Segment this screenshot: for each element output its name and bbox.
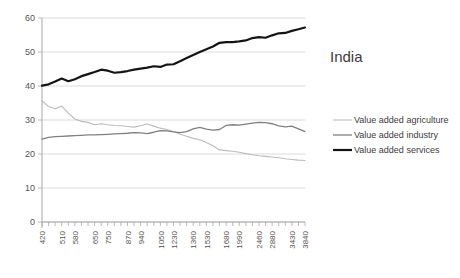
legend-label: Value added services: [354, 145, 440, 155]
series-line: [42, 101, 305, 161]
x-tick-label: 510: [58, 230, 67, 244]
chart-container: 0102030405060 42051058065075087094010501…: [0, 0, 460, 278]
line-chart: 0102030405060 42051058065075087094010501…: [0, 0, 460, 278]
x-tick-label: 1990: [235, 230, 244, 248]
y-tick-label: 20: [25, 149, 35, 159]
chart-title: India: [330, 48, 363, 65]
y-tick-label: 30: [25, 115, 35, 125]
x-tick-label: 3430: [288, 230, 297, 248]
x-tick-label: 870: [124, 230, 133, 244]
chart-legend: Value added agricultureValue added indus…: [333, 115, 448, 155]
y-tick-label: 50: [25, 47, 35, 57]
x-tick-label: 2460: [255, 230, 264, 248]
x-tick-label: 3840: [301, 230, 310, 248]
y-tick-label: 10: [25, 183, 35, 193]
x-tick-label: 650: [91, 230, 100, 244]
gridlines: [42, 18, 305, 222]
y-tick-label: 0: [30, 217, 35, 227]
x-tick-label: 1530: [203, 230, 212, 248]
x-tick-label: 1050: [157, 230, 166, 248]
x-tick-label: 1360: [189, 230, 198, 248]
x-tick-label: 750: [104, 230, 113, 244]
legend-label: Value added industry: [354, 130, 438, 140]
y-axis-tick-labels: 0102030405060: [25, 13, 42, 227]
y-tick-label: 60: [25, 13, 35, 23]
x-tick-label: 420: [38, 230, 47, 244]
x-tick-label: 1680: [222, 230, 231, 248]
x-axis-tickmarks: [42, 222, 305, 226]
series-line: [42, 122, 305, 139]
y-tick-label: 40: [25, 81, 35, 91]
x-tick-label: 2880: [268, 230, 277, 248]
x-tick-label: 580: [71, 230, 80, 244]
series-line: [42, 28, 305, 86]
x-tick-label: 1230: [170, 230, 179, 248]
x-tick-label: 940: [137, 230, 146, 244]
series-lines: [42, 28, 305, 161]
legend-label: Value added agriculture: [354, 115, 448, 125]
x-axis-tick-labels: 4205105806507508709401050123013601530168…: [38, 230, 310, 248]
